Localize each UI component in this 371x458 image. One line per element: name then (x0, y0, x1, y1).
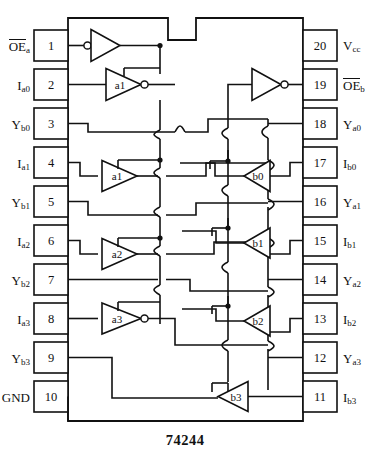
pin-number-4: 4 (48, 156, 55, 170)
pin-number-15: 15 (314, 234, 327, 248)
pin-number-13: 13 (314, 312, 327, 326)
pin-number-5: 5 (48, 195, 54, 209)
junction-dot-a1-en (157, 157, 162, 162)
a-enable-stubs (118, 62, 160, 311)
gate-label-a2: a2 (112, 248, 122, 260)
pin-number-20: 20 (314, 39, 327, 53)
pin-number-12: 12 (314, 351, 327, 365)
wire-pin9-yb3 (68, 358, 218, 399)
hop-c-3 (268, 199, 274, 210)
gate-label-b1: b1 (253, 237, 264, 249)
pin-number-19: 19 (314, 78, 327, 92)
wire-oeb-inv-in (228, 85, 252, 108)
pin-number-3: 3 (48, 117, 54, 131)
wire-pin6-to-a2 (68, 241, 98, 255)
wire-b0-out (180, 163, 244, 176)
wire-b2-out (182, 309, 244, 321)
pin-number-10: 10 (45, 390, 58, 404)
pin-number-7: 7 (48, 273, 54, 287)
hop-b-3 (222, 262, 228, 273)
junction-dot-a2-en (157, 235, 162, 240)
pin-number-group: 1 2 3 4 5 6 7 8 9 10 20 19 18 17 16 15 1… (45, 39, 327, 404)
pin-number-16: 16 (314, 195, 327, 209)
pin-number-11: 11 (314, 390, 326, 404)
bubble-icon-a0-out (141, 81, 148, 88)
hop-a-5 (154, 285, 160, 295)
pin-number-9: 9 (48, 351, 54, 365)
junction-dot-b1-en (225, 225, 230, 230)
gate-label-a3: a3 (112, 313, 123, 325)
pin-number-18: 18 (314, 117, 327, 131)
hop-c-1 (262, 126, 268, 138)
gate-label-b2: b2 (253, 315, 264, 327)
gate-a3[interactable] (102, 303, 148, 334)
hop-c-5 (268, 287, 274, 297)
junction-dot-b2-en (225, 303, 230, 308)
gate-label-group: a1 a1 a2 a3 b0 b1 b2 b3 (112, 79, 264, 403)
hop-d-1 (175, 126, 185, 132)
hop-d-2 (158, 170, 166, 176)
pin-number-14: 14 (314, 273, 327, 287)
wire-pin4-to-a1 (68, 163, 98, 177)
gate-label-a0: a1 (115, 79, 125, 91)
bubble-icon-a3-out (141, 315, 148, 322)
gate-oeb-inverter[interactable] (252, 69, 288, 101)
wire-pin13-to-b2 (270, 319, 303, 333)
hop-b-1 (222, 128, 228, 139)
wire-pin5-yb1-a (68, 202, 158, 216)
junction-dot-b0-en (225, 158, 230, 163)
wire-pin15-to-b1 (270, 241, 303, 255)
hop-c-6 (268, 341, 274, 351)
pin-number-2: 2 (48, 78, 54, 92)
pin-number-6: 6 (48, 234, 54, 248)
gate-label-b3: b3 (231, 391, 243, 403)
bubble-icon-oeb-out (281, 81, 288, 88)
gate-oea-inverter[interactable] (84, 30, 120, 62)
gate-label-a1: a1 (112, 170, 122, 182)
wire-pin3-yb0-b (185, 119, 268, 132)
hop-d-3 (158, 209, 166, 215)
wire-pin17-to-b0 (270, 163, 303, 177)
wire-pin5-yb1-b (166, 203, 268, 215)
bubble-icon-oea-in (84, 42, 91, 49)
schematic-canvas: 1 2 3 4 5 6 7 8 9 10 20 19 18 17 16 15 1… (0, 0, 371, 458)
pin-number-17: 17 (314, 156, 327, 170)
wire-pin7-yb2-b (166, 280, 268, 292)
gate-label-b0: b0 (253, 170, 265, 182)
hop-d-4 (158, 248, 166, 254)
gate-a0[interactable] (106, 69, 148, 101)
junction-dot-oea (157, 43, 162, 48)
schematic-sheet: 1 2 3 4 5 6 7 8 9 10 20 19 18 17 16 15 1… (0, 0, 371, 458)
pin-number-1: 1 (48, 39, 54, 53)
part-number-label: 74244 (166, 432, 205, 448)
hop-b-2 (222, 185, 228, 196)
pin-number-8: 8 (48, 312, 54, 326)
